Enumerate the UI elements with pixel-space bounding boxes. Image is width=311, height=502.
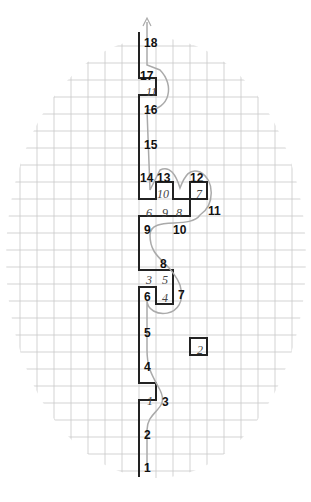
move-number-label: 2 (144, 429, 151, 441)
move-number-label: 1 (144, 462, 151, 474)
move-number-label: 9 (144, 224, 151, 236)
piece-number-label: 3 (146, 274, 152, 286)
piece-number-label: 1 (147, 395, 153, 407)
move-number-label: 4 (144, 361, 151, 373)
grid-diagram (0, 0, 311, 502)
piece-number-label: 2 (197, 344, 203, 356)
move-number-label: 6 (144, 291, 151, 303)
move-number-label: 10 (173, 224, 186, 236)
grid-lines (0, 0, 311, 502)
piece-number-label: 6 (146, 207, 152, 219)
diagram-canvas: 1234567891011121314151617181234567891011 (0, 0, 311, 502)
move-number-label: 18 (144, 37, 157, 49)
move-number-label: 3 (162, 396, 169, 408)
move-number-label: 5 (144, 327, 151, 339)
piece-number-label: 4 (162, 292, 168, 304)
move-number-label: 17 (140, 70, 153, 82)
move-number-label: 7 (178, 289, 185, 301)
move-number-label: 16 (144, 104, 157, 116)
piece-number-label: 9 (162, 207, 168, 219)
move-number-label: 15 (144, 139, 157, 151)
move-number-label: 13 (157, 172, 170, 184)
move-number-label: 8 (160, 258, 167, 270)
move-number-label: 11 (208, 205, 221, 217)
piece-number-label: 7 (196, 188, 202, 200)
move-number-label: 12 (190, 172, 203, 184)
piece-number-label: 10 (157, 188, 169, 200)
piece-number-label: 11 (146, 86, 157, 98)
piece-number-label: 5 (162, 274, 168, 286)
move-number-label: 14 (140, 172, 153, 184)
piece-number-label: 8 (176, 207, 182, 219)
